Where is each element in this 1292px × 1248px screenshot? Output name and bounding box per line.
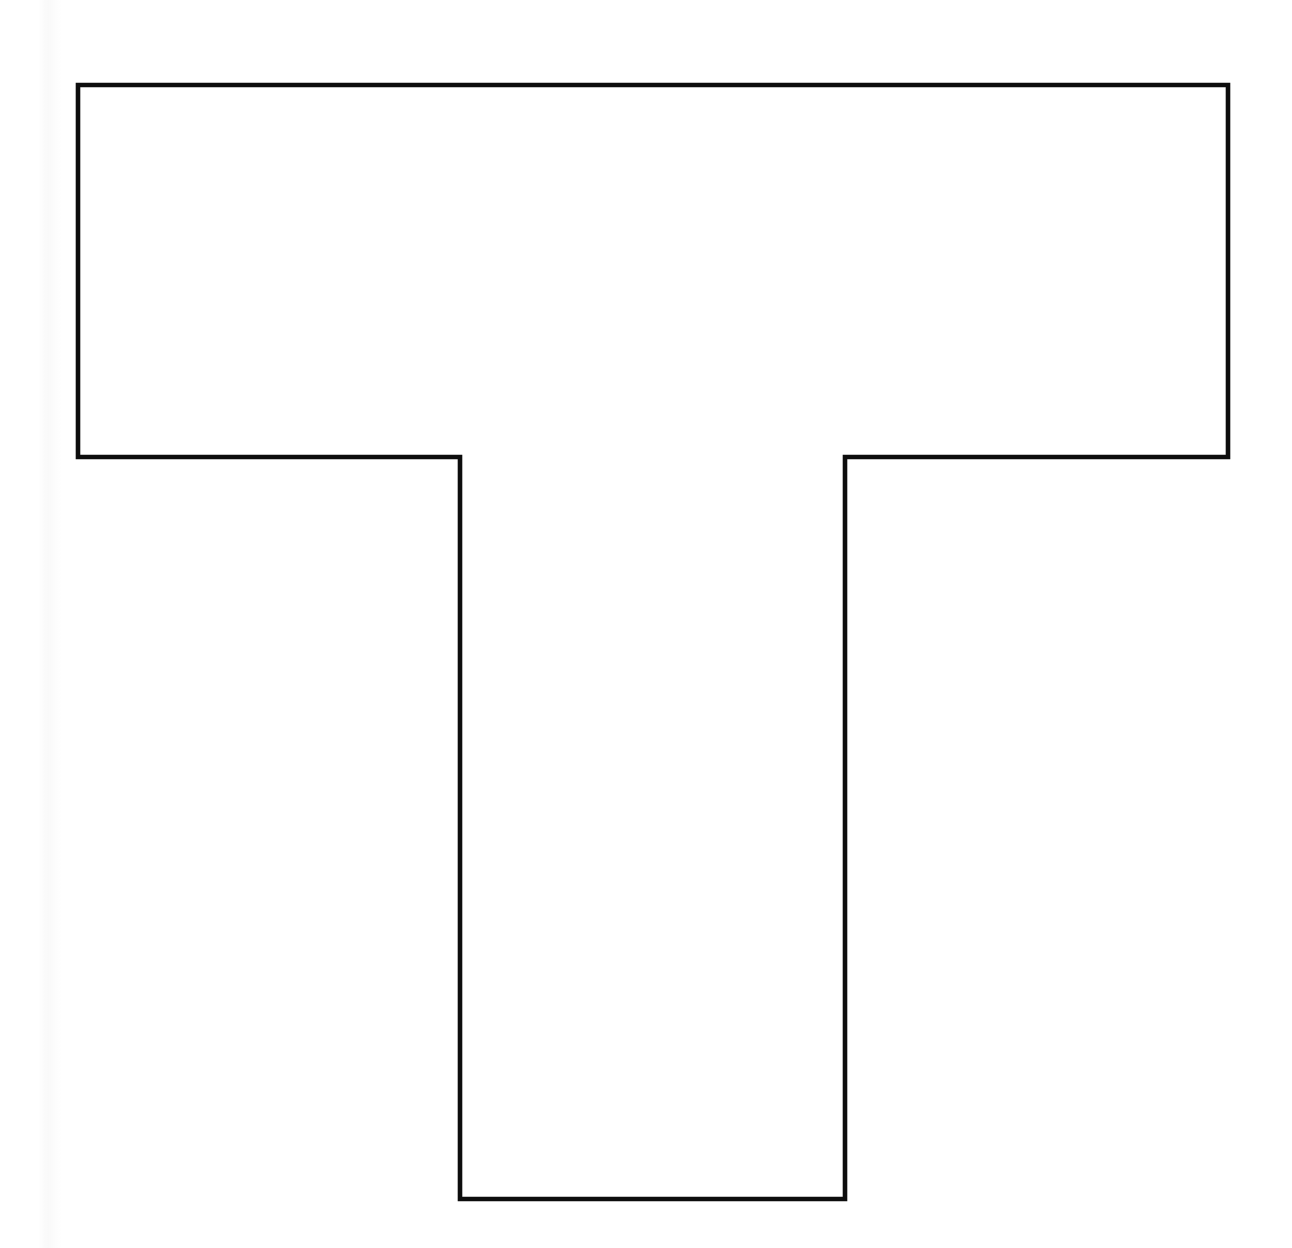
drawing-canvas (0, 0, 1292, 1248)
t-shape-outline-path (78, 85, 1228, 1199)
t-shape-figure (0, 0, 1292, 1248)
